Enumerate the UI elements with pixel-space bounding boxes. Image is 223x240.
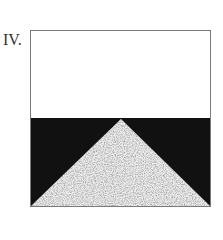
top-region bbox=[31, 31, 210, 119]
figure-diagram bbox=[30, 30, 212, 208]
figure-label: IV. bbox=[3, 31, 22, 49]
